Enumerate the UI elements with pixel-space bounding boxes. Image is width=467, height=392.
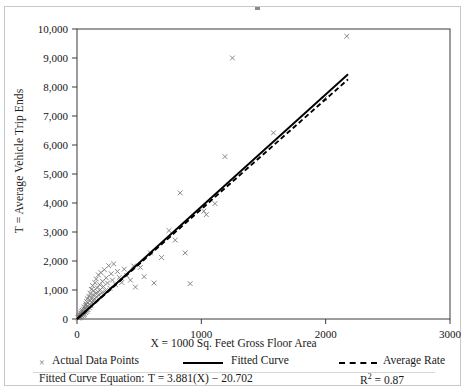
data-point — [128, 278, 133, 283]
y-axis-tick-marks — [72, 29, 77, 319]
data-point — [188, 281, 193, 286]
data-point — [159, 255, 164, 260]
data-point — [102, 267, 107, 272]
data-point — [167, 228, 172, 233]
svg-text:8,000: 8,000 — [43, 81, 68, 93]
data-point — [142, 274, 147, 279]
data-point — [111, 262, 116, 267]
scatter-plot-svg: 01,0002,0003,0004,0005,0006,0007,0008,00… — [5, 7, 462, 347]
legend-label-actual-data-points: Actual Data Points — [52, 354, 139, 366]
solid-line-icon — [183, 362, 223, 364]
chart-legend: × Actual Data Points Fitted Curve Averag… — [5, 354, 462, 388]
data-point — [152, 281, 157, 286]
data-point — [213, 201, 218, 206]
dashed-line-icon — [339, 362, 377, 364]
data-point — [105, 281, 110, 286]
svg-text:4,000: 4,000 — [43, 197, 68, 209]
data-point — [133, 285, 138, 290]
svg-text:3,000: 3,000 — [43, 226, 68, 238]
data-point — [271, 130, 276, 135]
svg-text:6,000: 6,000 — [43, 139, 68, 151]
plot-area: 01,0002,0003,0004,0005,0006,0007,0008,00… — [5, 7, 462, 347]
data-point — [138, 265, 143, 270]
fitted-curve-line — [77, 74, 348, 319]
data-point — [122, 267, 127, 272]
legend-label-fitted-curve: Fitted Curve — [231, 354, 289, 366]
equation-value: T = 3.881(X) − 20.702 — [148, 372, 253, 384]
data-point — [344, 34, 349, 39]
data-point — [106, 263, 111, 268]
data-point — [183, 250, 188, 255]
svg-text:9,000: 9,000 — [43, 52, 68, 64]
data-point — [93, 280, 98, 285]
data-point — [178, 190, 183, 195]
svg-text:7,000: 7,000 — [43, 110, 68, 122]
data-point — [110, 278, 115, 283]
plot-frame — [77, 29, 450, 319]
trend-lines-layer — [77, 74, 348, 319]
legend-divider — [33, 372, 435, 373]
r-squared-value: = 0.87 — [375, 374, 405, 386]
data-point — [204, 212, 209, 217]
svg-text:2,000: 2,000 — [43, 255, 68, 267]
data-point — [223, 154, 228, 159]
r-squared-prefix: R — [360, 374, 368, 386]
svg-text:1,000: 1,000 — [43, 284, 68, 296]
r-squared-exponent: 2 — [368, 372, 372, 381]
r-squared: R2 = 0.87 — [360, 372, 404, 386]
data-point — [173, 238, 178, 243]
chart-figure: 01,0002,0003,0004,0005,0006,0007,0008,00… — [4, 6, 461, 386]
data-points-layer — [76, 34, 350, 321]
svg-text:0: 0 — [63, 313, 69, 325]
data-point — [104, 275, 109, 280]
y-axis-title: T = Average Vehicle Trip Ends — [13, 61, 25, 261]
x-marker-icon: × — [39, 357, 45, 368]
x-axis-title: X = 1000 Sq. Feet Gross Floor Area — [5, 337, 462, 349]
equation-label: Fitted Curve Equation: — [39, 372, 144, 384]
data-point — [109, 271, 114, 276]
svg-text:10,000: 10,000 — [38, 23, 69, 35]
x-axis-tick-marks — [77, 319, 450, 324]
data-point — [115, 269, 120, 274]
svg-text:5,000: 5,000 — [43, 168, 68, 180]
data-point — [230, 56, 235, 61]
y-axis-tick-labels: 01,0002,0003,0004,0005,0006,0007,0008,00… — [38, 23, 69, 325]
legend-label-average-rate: Average Rate — [383, 354, 445, 366]
data-point — [201, 209, 206, 214]
